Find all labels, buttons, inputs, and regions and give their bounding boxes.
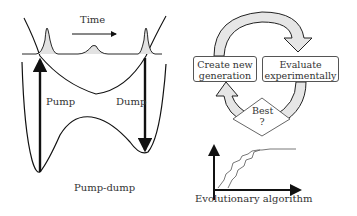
dump-label: Dump — [116, 96, 146, 107]
best-text: Best — [252, 105, 272, 116]
pulse-train — [22, 28, 162, 54]
evaluate-experimentally-box: Evaluate experimentally — [262, 56, 339, 82]
pump-dump-caption: Pump-dump — [74, 182, 135, 193]
best-decision-label: Best ? — [252, 105, 272, 127]
create-box-line2: generation — [194, 70, 256, 81]
create-new-generation-box: Create new generation — [193, 56, 257, 82]
pump-label: Pump — [46, 96, 75, 107]
diagram-canvas — [0, 0, 357, 216]
create-box-line1: Create new — [194, 59, 256, 70]
cycle-arrow-top — [214, 12, 312, 56]
evaluate-box-line1: Evaluate — [263, 59, 338, 70]
question-mark: ? — [252, 116, 272, 127]
evaluate-box-line2: experimentally — [263, 70, 338, 81]
evolutionary-algorithm-caption: Evolutionary algorithm — [195, 193, 312, 204]
time-label: Time — [80, 14, 105, 25]
fitness-curve-1 — [218, 149, 296, 188]
